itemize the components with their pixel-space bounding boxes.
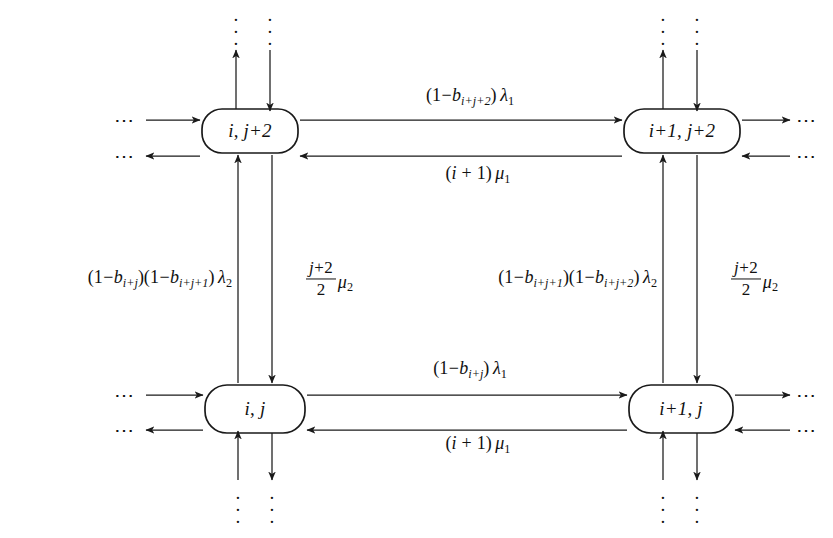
- node-label-bottom-left: i, j: [245, 398, 266, 420]
- ellipsis-bottom-right-col: · · ·: [660, 492, 666, 527]
- fraction-left-mu2: j+2 2: [306, 258, 336, 299]
- edge-label-top-mu1: (i + 1) μ1: [446, 163, 511, 186]
- ellipsis-left-bottom-out: ⋯: [114, 418, 138, 442]
- node-bottom-right-second: j: [697, 398, 702, 419]
- node-top-right-comma: ,: [677, 120, 682, 141]
- ellipsis-top-left-col2: · · ·: [267, 14, 273, 49]
- edge-label-left-mu2: j+2 2 μ2: [304, 258, 353, 299]
- node-bottom-right-first: i+1: [659, 398, 687, 419]
- ellipsis-top-left-col: · · ·: [233, 14, 239, 49]
- node-bottom-left-second: j: [260, 398, 265, 419]
- edge-label-right-mu2: j+2 2 μ2: [729, 258, 778, 299]
- ellipsis-top-right-col: · · ·: [660, 14, 666, 49]
- vdot: ·: [694, 516, 700, 528]
- ellipsis-left-top-out: ⋯: [114, 144, 138, 168]
- edge-label-bottom-lambda1: (1−bi+j) λ1: [433, 358, 507, 381]
- node-top-left-comma: ,: [234, 120, 239, 141]
- ellipsis-bottom-right-col2: · · ·: [694, 492, 700, 527]
- vdot: ·: [694, 38, 700, 50]
- ellipsis-left-bottom-in: ⋯: [114, 383, 138, 407]
- edge-label-bottom-mu1: (i + 1) μ1: [446, 433, 511, 456]
- edge-label-left-lambda2: (1−bi+j)(1−bi+j+1) λ2: [88, 267, 232, 290]
- node-bottom-right-comma: ,: [687, 398, 692, 419]
- ellipsis-top-right-col2: · · ·: [694, 14, 700, 49]
- node-bottom-left-comma: ,: [250, 398, 255, 419]
- node-label-top-left: i, j+2: [228, 120, 272, 142]
- state-transition-diagram: i, j+2 i+1, j+2 i, j i+1, j (1−bi+j+2) λ…: [0, 0, 833, 538]
- edge-label-mid-lambda2: (1−bi+j+1)(1−bi+j+2) λ2: [498, 267, 657, 290]
- vdot: ·: [660, 38, 666, 50]
- node-top-left-second: j+2: [244, 120, 272, 141]
- vdot: ·: [660, 516, 666, 528]
- ellipsis-right-top-in: ⋯: [796, 144, 820, 168]
- node-top-right-first: i+1: [649, 120, 677, 141]
- edge-label-top-lambda1: (1−bi+j+2) λ1: [426, 85, 514, 108]
- vdot: ·: [269, 516, 275, 528]
- fraction-right-mu2: j+2 2: [731, 258, 761, 299]
- node-label-bottom-right: i+1, j: [659, 398, 703, 420]
- node-label-top-right: i+1, j+2: [649, 120, 715, 142]
- vdot: ·: [233, 38, 239, 50]
- vdot: ·: [267, 38, 273, 50]
- ellipsis-right-bottom-out: ⋯: [796, 383, 820, 407]
- ellipsis-left-top-in: ⋯: [114, 108, 138, 132]
- ellipsis-right-bottom-in: ⋯: [796, 418, 820, 442]
- ellipsis-right-top-out: ⋯: [796, 108, 820, 132]
- ellipsis-bottom-left-col2: · · ·: [269, 492, 275, 527]
- vdot: ·: [235, 516, 241, 528]
- node-top-right-second: j+2: [687, 120, 715, 141]
- ellipsis-bottom-left-col: · · ·: [235, 492, 241, 527]
